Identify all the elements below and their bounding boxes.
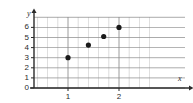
major-gridlines [34, 17, 185, 88]
y-tick-label: 4 [19, 44, 29, 52]
data-point [86, 42, 91, 47]
data-point-series [65, 25, 121, 61]
y-tick-label: 6 [19, 23, 29, 31]
y-tick-label: 3 [19, 54, 29, 62]
x-axis-label: x [178, 75, 182, 83]
x-tick-label: 1 [62, 93, 74, 101]
y-tick-label: 1 [19, 74, 29, 82]
scatter-plot-figure: y x 6543210 12 [0, 0, 193, 103]
data-point [65, 55, 70, 60]
x-tick-label: 2 [113, 93, 125, 101]
data-point [116, 25, 121, 30]
y-tick-label: 2 [19, 64, 29, 72]
y-tick-label: 5 [19, 34, 29, 42]
y-tick-label: 0 [19, 84, 29, 92]
data-point [101, 34, 106, 39]
y-axis-label: y [27, 10, 31, 18]
